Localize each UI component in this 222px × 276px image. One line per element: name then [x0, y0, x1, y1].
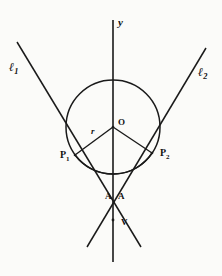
tangent-point-p2-label-subscript: 2 [166, 153, 170, 161]
vertex-label: V [121, 218, 128, 227]
line-l2-label: ℓ2 [198, 66, 207, 82]
tangent-line-l2 [87, 48, 206, 247]
y-axis-label: y [118, 17, 123, 28]
tangent-point-p1-label: P1 [60, 150, 70, 163]
center-point-label: O [118, 118, 125, 127]
geometry-figure: y ℓ1 ℓ2 O r P1 P2 A A V [0, 0, 222, 276]
point-marker-V [112, 219, 115, 222]
radius-segment-right [113, 127, 152, 153]
tangent-point-p2-label: P2 [160, 148, 170, 161]
angle-right-label: A [118, 192, 125, 201]
line-l1-label: ℓ1 [9, 61, 18, 77]
tangent-point-p1-label-subscript: 1 [66, 155, 70, 163]
geometry-canvas [0, 0, 222, 276]
point-marker-P1 [74, 154, 77, 157]
line-l2-label-subscript: 2 [203, 72, 207, 81]
point-marker-O [112, 126, 115, 129]
point-marker-P2 [151, 152, 154, 155]
radius-label: r [91, 127, 95, 136]
angle-left-label: A [105, 192, 112, 201]
line-l1-label-subscript: 1 [14, 67, 18, 76]
